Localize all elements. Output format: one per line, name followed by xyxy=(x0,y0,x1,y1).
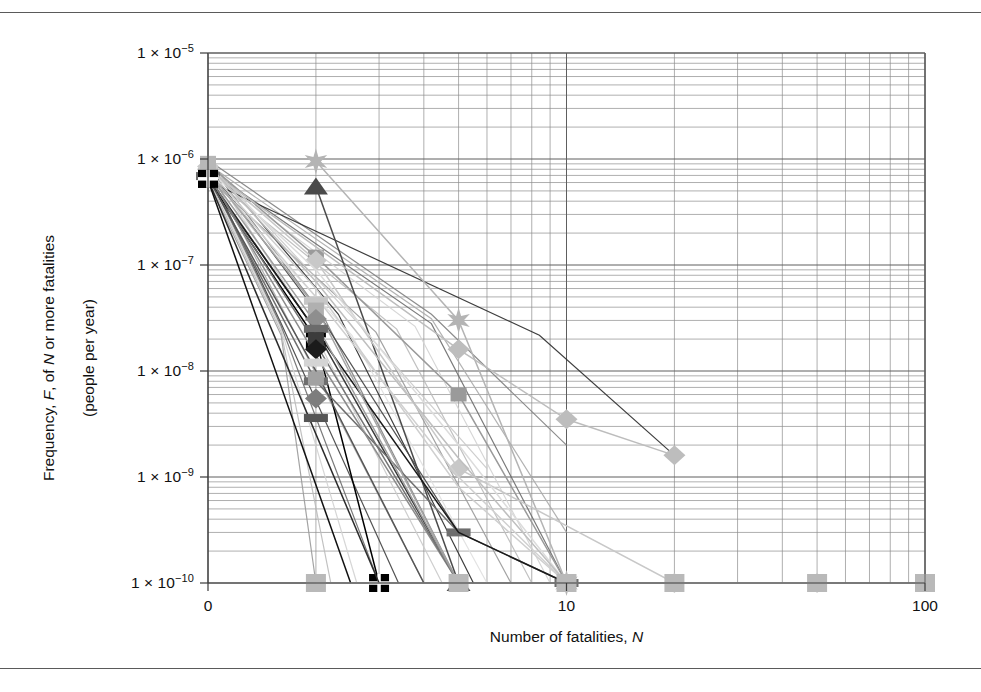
y-tick-exponent: −7 xyxy=(181,254,194,266)
x-tick-label: 100 xyxy=(885,597,965,615)
figure-container: Frequency, F, of N or more fatalities (p… xyxy=(0,0,981,692)
y-tick-mantissa: 1 × 10 xyxy=(137,256,181,273)
y-tick-mantissa: 1 × 10 xyxy=(137,468,181,485)
y-tick-exponent: −6 xyxy=(181,148,194,160)
series-layer xyxy=(196,148,935,596)
plot-area: Frequency, F, of N or more fatalities (p… xyxy=(0,0,981,692)
y-axis-title-F: F xyxy=(40,391,57,400)
y-tick-label: 1 × 10−8 xyxy=(137,360,194,380)
y-tick-exponent: −9 xyxy=(181,466,194,478)
x-axis-title-N: N xyxy=(632,628,643,645)
y-tick-mantissa: 1 × 10 xyxy=(137,150,181,167)
y-axis-title-line2: (people per year) xyxy=(80,299,97,417)
y-axis-title: Frequency, F, of N or more fatalities (p… xyxy=(19,193,99,523)
y-tick-exponent: −5 xyxy=(181,42,194,54)
y-axis-title-line1: Frequency, F, of N or more fatalities xyxy=(40,235,57,481)
y-tick-mantissa: 1 × 10 xyxy=(137,44,181,61)
y-tick-label: 1 × 10−5 xyxy=(137,42,194,62)
y-tick-label: 1 × 10−6 xyxy=(137,148,194,168)
y-axis-title-N: N xyxy=(40,354,57,365)
x-axis-title: Number of fatalities, N xyxy=(208,628,925,646)
series-curve-20 xyxy=(208,180,351,583)
x-tick-label: 0 xyxy=(168,597,248,615)
y-tick-label: 1 × 10−9 xyxy=(137,466,194,486)
y-tick-mantissa: 1 × 10 xyxy=(137,362,181,379)
x-tick-label: 10 xyxy=(527,597,607,615)
data-point-marker xyxy=(304,178,328,195)
y-tick-label: 1 × 10−7 xyxy=(137,254,194,274)
y-tick-exponent: −8 xyxy=(181,360,194,372)
y-tick-mantissa: 1 × 10 xyxy=(131,574,175,591)
y-tick-label: 1 × 10−10 xyxy=(131,572,194,592)
data-point-marker xyxy=(448,339,470,359)
y-tick-exponent: −10 xyxy=(175,572,194,584)
data-point-marker xyxy=(451,388,467,402)
